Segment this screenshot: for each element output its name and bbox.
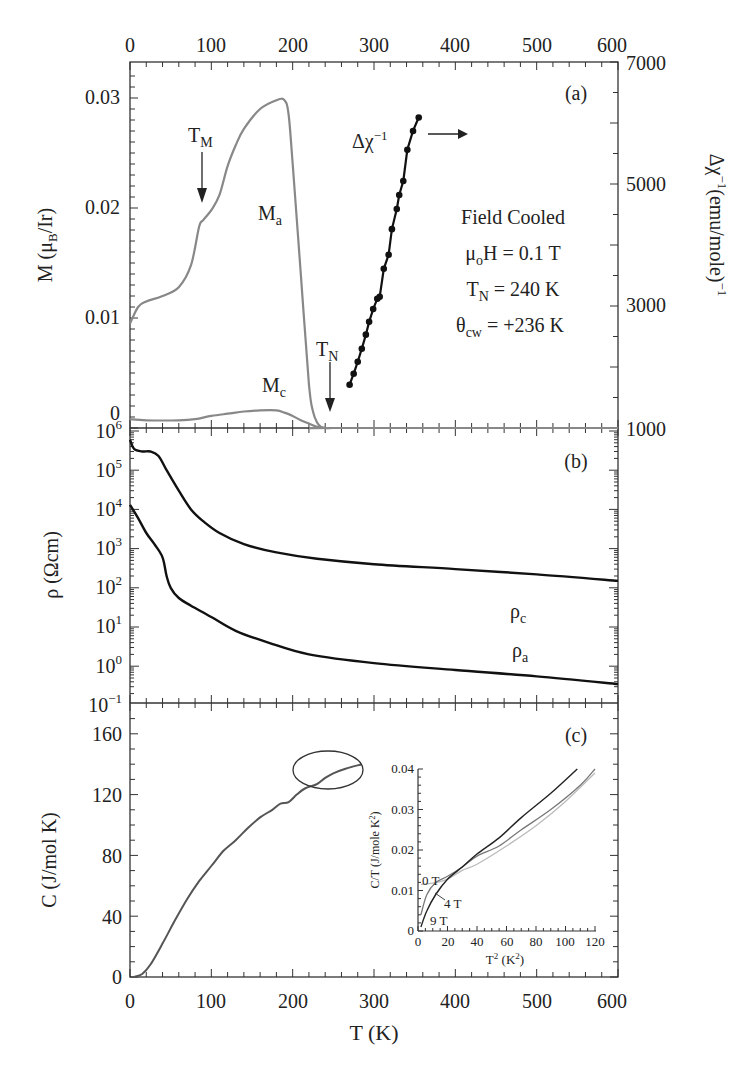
svg-text:0.01: 0.01 [391, 883, 414, 898]
panel-b-tag: (b) [564, 450, 587, 473]
top-axis-labels: 0 100 200 300 400 500 600 [125, 34, 627, 56]
rho-c-curve [130, 440, 618, 581]
specific-heat-curve [134, 764, 362, 977]
panel-a-right-ticks: 7000 5000 3000 1000 [626, 52, 666, 440]
svg-text:106: 106 [96, 417, 123, 442]
inverse-susceptibility-points [346, 114, 422, 388]
svg-text:101: 101 [96, 612, 123, 637]
top-tick-600: 600 [597, 34, 627, 56]
bottom-tick-400: 400 [440, 990, 470, 1012]
annotation-field: μoH = 0.1 T [465, 242, 560, 268]
rho-a-label: ρa [512, 639, 529, 665]
panel-c-ticks: 160 120 80 40 0 [92, 723, 122, 988]
panel-b-ylabel: ρ (Ωcm) [40, 531, 63, 599]
tick-0.03: 0.03 [85, 86, 120, 108]
svg-text:40: 40 [471, 934, 484, 949]
dchi-label: Δχ−1 [352, 128, 388, 153]
top-tick-300: 300 [359, 34, 389, 56]
svg-text:10−1: 10−1 [88, 691, 122, 716]
bottom-tick-0: 0 [125, 990, 135, 1012]
tick-0.02: 0.02 [85, 196, 120, 218]
bottom-tick-500: 500 [522, 990, 552, 1012]
tn-arrowhead-icon [325, 398, 335, 412]
top-tick-200: 200 [278, 34, 308, 56]
tick-5000: 5000 [626, 173, 666, 195]
x-axis-title: T (K) [349, 1020, 398, 1045]
svg-text:0: 0 [415, 934, 422, 949]
inset-label-9T: 9 T [430, 913, 448, 928]
svg-text:0: 0 [408, 923, 415, 938]
inset-label-0T: 0 T [422, 873, 440, 888]
panel-a-ylabel-right: Δχ−1(emu/mole)−1 [705, 154, 730, 297]
svg-text:100: 100 [96, 652, 123, 677]
bottom-axis-labels: 0 100 200 300 400 500 600 [125, 990, 627, 1012]
svg-text:0.02: 0.02 [391, 842, 414, 857]
svg-text:100: 100 [555, 934, 575, 949]
tick-1000: 1000 [626, 418, 666, 440]
inset-curve-4T [421, 769, 595, 915]
tick-7000: 7000 [626, 52, 666, 74]
annotation-tn: TN = 240 K [466, 278, 560, 304]
svg-text:102: 102 [96, 573, 123, 598]
svg-text:103: 103 [96, 534, 123, 559]
tick-40: 40 [102, 906, 122, 928]
svg-text:105: 105 [96, 456, 123, 481]
inset-y-ticks: 0.04 0.03 0.02 0.01 0 [391, 761, 414, 938]
top-tick-0: 0 [125, 34, 135, 56]
figure: 0 100 200 300 400 500 600 0 100 200 300 … [0, 0, 740, 1067]
top-tick-400: 400 [440, 34, 470, 56]
tick-0: 0 [112, 966, 122, 988]
tm-label: TM [188, 124, 213, 150]
panel-c-ylabel: C (J/mol K) [38, 812, 61, 908]
bottom-tick-600: 600 [597, 990, 627, 1012]
tick-120: 120 [92, 784, 122, 806]
svg-text:120: 120 [585, 934, 605, 949]
panel-b-ticks: 106 105 104 103 102 101 100 10−1 [88, 417, 122, 716]
tick-0.01: 0.01 [85, 306, 120, 328]
inset-plot: 0.04 0.03 0.02 0.01 0 0 20 40 60 80 100 … [368, 761, 605, 967]
mc-label: Mc [262, 374, 286, 400]
tn-label: TN [316, 338, 338, 364]
inset-ylabel: C/T (J/mole K2) [368, 811, 382, 888]
inset-label-4T: 4 T [444, 896, 462, 911]
panel-a-tag: (a) [565, 82, 587, 105]
inset-curve-0T [421, 773, 595, 884]
ma-label: Ma [258, 202, 283, 228]
inset-xlabel: T2 (K2) [486, 951, 524, 967]
rho-c-label: ρc [510, 600, 526, 626]
top-tick-100: 100 [196, 34, 226, 56]
top-tick-500: 500 [522, 34, 552, 56]
svg-text:20: 20 [442, 934, 455, 949]
inset-x-ticks: 0 20 40 60 80 100 120 [415, 934, 605, 949]
panel-a-annotations: Field Cooled μoH = 0.1 T TN = 240 K θcw … [456, 206, 565, 340]
panel-a-ylabel-left: M (μB/Ir) [34, 208, 60, 282]
svg-text:0.03: 0.03 [391, 802, 414, 817]
tick-160: 160 [92, 723, 122, 745]
panel-a-left-ticks: 0.03 0.02 0.01 0 [85, 86, 120, 424]
svg-text:104: 104 [96, 495, 123, 520]
svg-text:60: 60 [501, 934, 514, 949]
bottom-tick-100: 100 [196, 990, 226, 1012]
panel-c-tag: (c) [565, 724, 587, 747]
tm-arrowhead-icon [197, 188, 207, 203]
svg-text:80: 80 [530, 934, 543, 949]
right-axis-arrowhead-icon [458, 129, 468, 139]
annotation-theta-cw: θcw = +236 K [456, 314, 564, 340]
tick-80: 80 [102, 845, 122, 867]
inverse-susceptibility-curve [350, 118, 419, 385]
anomaly-ellipse [293, 751, 363, 789]
tick-3000: 3000 [626, 294, 666, 316]
bottom-tick-300: 300 [359, 990, 389, 1012]
svg-text:0.04: 0.04 [391, 761, 414, 776]
annotation-field-cooled: Field Cooled [461, 206, 565, 228]
bottom-tick-200: 200 [278, 990, 308, 1012]
rho-a-curve [130, 505, 618, 684]
